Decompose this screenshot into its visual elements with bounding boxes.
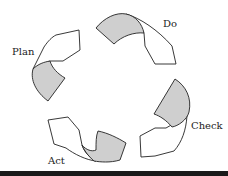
plan-arrow [32, 30, 80, 101]
plan-arrow-head [32, 61, 65, 101]
check-label: Check [191, 120, 224, 131]
pdca-cycle-diagram: Do Plan Check Act [0, 0, 228, 176]
check-arrow [140, 79, 190, 157]
bottom-border-bar [0, 171, 228, 176]
plan-arrow-tail [33, 30, 80, 69]
do-label: Do [163, 18, 177, 29]
check-arrow-head [154, 79, 190, 127]
plan-label: Plan [12, 46, 35, 57]
act-label: Act [47, 155, 65, 166]
